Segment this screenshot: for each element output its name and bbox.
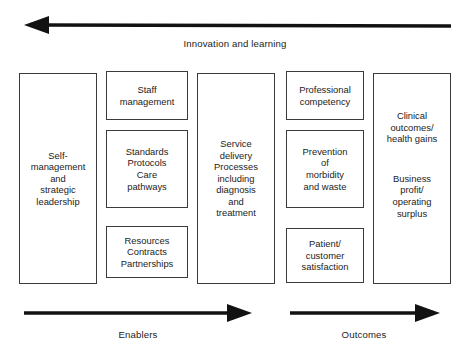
box-professional-competency-text: Professional competency bbox=[296, 84, 354, 107]
box-prevention-morbidity-text: Prevention of morbidity and waste bbox=[300, 146, 351, 192]
box-clinical-outcomes-text: Clinical outcomes/ health gains bbox=[384, 110, 441, 145]
enablers-label: Enablers bbox=[88, 329, 188, 340]
box-patient-satisfaction: Patient/ customer satisfaction bbox=[286, 228, 364, 283]
box-self-management: Self- management and strategic leadershi… bbox=[19, 73, 97, 284]
box-staff-management: Staff management bbox=[106, 71, 188, 120]
box-professional-competency: Professional competency bbox=[286, 71, 364, 120]
box-self-management-text: Self- management and strategic leadershi… bbox=[28, 150, 89, 208]
outcomes-label: Outcomes bbox=[314, 329, 414, 340]
box-standards-protocols-text: Standards Protocols Care pathways bbox=[123, 146, 172, 192]
box-patient-satisfaction-text: Patient/ customer satisfaction bbox=[299, 238, 352, 273]
outcomes-arrow bbox=[0, 302, 465, 324]
box-resources-contracts: Resources Contracts Partnerships bbox=[106, 226, 188, 278]
innovation-and-learning-label: Innovation and learning bbox=[155, 38, 315, 49]
diagram-canvas: Innovation and learning Self- management… bbox=[0, 0, 465, 354]
box-service-delivery-text: Service delivery Processes including dia… bbox=[211, 138, 261, 219]
box-prevention-morbidity: Prevention of morbidity and waste bbox=[286, 130, 364, 208]
box-standards-protocols: Standards Protocols Care pathways bbox=[106, 130, 188, 208]
box-results: Clinical outcomes/ health gains Business… bbox=[373, 73, 451, 284]
box-service-delivery: Service delivery Processes including dia… bbox=[197, 73, 275, 284]
innovation-and-learning-arrow bbox=[0, 14, 465, 38]
box-resources-contracts-text: Resources Contracts Partnerships bbox=[118, 235, 177, 270]
box-staff-management-text: Staff management bbox=[117, 84, 178, 107]
box-business-profit-text: Business profit/ operating surplus bbox=[389, 173, 434, 219]
